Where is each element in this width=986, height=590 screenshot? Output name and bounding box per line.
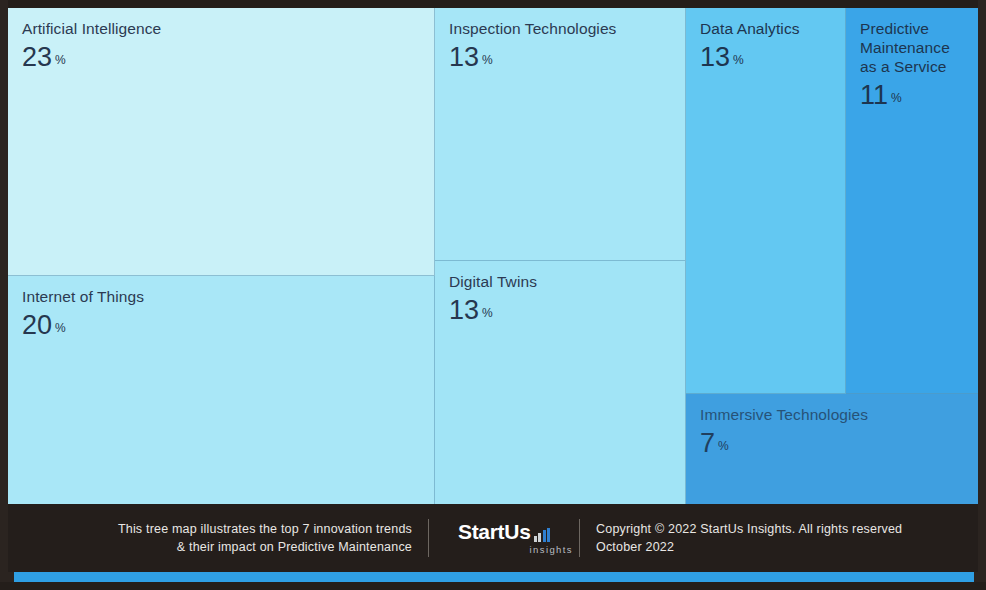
tile-value: 20% xyxy=(22,311,420,341)
startus-insights-logo: StartUs insights xyxy=(429,521,579,555)
tile-number: 13 xyxy=(449,295,479,325)
percent-symbol: % xyxy=(482,306,493,320)
percent-symbol: % xyxy=(718,439,729,453)
treemap-tile-data-analytics[interactable]: Data Analytics 13% xyxy=(686,8,846,394)
tile-number: 11 xyxy=(860,80,888,110)
tile-label: Digital Twins xyxy=(449,273,671,292)
tile-number: 23 xyxy=(22,42,52,72)
footer-bar: This tree map illustrates the top 7 inno… xyxy=(8,504,978,572)
tile-number: 20 xyxy=(22,310,52,340)
percent-symbol: % xyxy=(55,321,66,335)
brand-name: StartUs xyxy=(458,521,531,542)
tile-value: 13% xyxy=(700,43,831,73)
percent-symbol: % xyxy=(482,53,493,67)
tile-value: 11% xyxy=(860,81,964,111)
treemap-tile-digital-twins[interactable]: Digital Twins 13% xyxy=(435,261,686,504)
treemap-tile-predictive-maintenance-as-a-service[interactable]: Predictive Maintenance as a Service 11% xyxy=(846,8,978,394)
treemap-chart: Artificial Intelligence 23% Internet of … xyxy=(8,8,978,504)
footer-caption: This tree map illustrates the top 7 inno… xyxy=(8,520,428,556)
poster-frame-bottom xyxy=(0,582,986,590)
tile-label: Data Analytics xyxy=(700,20,831,39)
accent-strip xyxy=(14,572,974,582)
tile-label: Predictive Maintenance as a Service xyxy=(860,20,964,77)
poster-frame-right xyxy=(978,0,986,590)
tile-number: 7 xyxy=(700,428,715,458)
tile-value: 13% xyxy=(449,296,671,326)
tile-label: Inspection Technologies xyxy=(449,20,671,39)
treemap-tile-internet-of-things[interactable]: Internet of Things 20% xyxy=(8,276,435,504)
tile-number: 13 xyxy=(449,42,479,72)
tile-value: 13% xyxy=(449,43,671,73)
treemap-tile-immersive-technologies[interactable]: Immersive Technologies 7% xyxy=(686,394,978,504)
tile-value: 7% xyxy=(700,429,964,459)
tile-label: Immersive Technologies xyxy=(700,406,964,425)
tile-number: 13 xyxy=(700,42,730,72)
brand-row: StartUs xyxy=(458,521,550,542)
percent-symbol: % xyxy=(891,91,902,105)
tile-label: Internet of Things xyxy=(22,288,420,307)
poster-frame-left xyxy=(0,0,8,590)
bar-chart-icon xyxy=(534,528,551,542)
copyright-text: Copyright © 2022 StartUs Insights. All r… xyxy=(580,520,978,556)
poster-frame-top xyxy=(0,0,986,8)
percent-symbol: % xyxy=(733,53,744,67)
tile-label: Artificial Intelligence xyxy=(22,20,420,39)
tile-value: 23% xyxy=(22,43,420,73)
percent-symbol: % xyxy=(55,53,66,67)
treemap-tile-inspection-technologies[interactable]: Inspection Technologies 13% xyxy=(435,8,686,261)
treemap-tile-artificial-intelligence[interactable]: Artificial Intelligence 23% xyxy=(8,8,435,276)
brand-subtitle: insights xyxy=(530,544,573,555)
treemap-poster: Artificial Intelligence 23% Internet of … xyxy=(0,0,986,590)
